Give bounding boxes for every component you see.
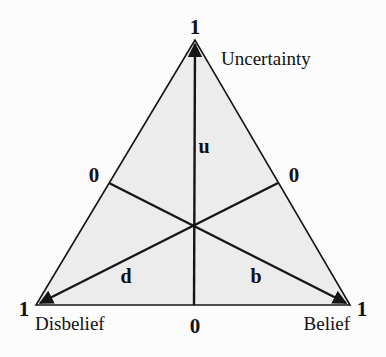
u-axis-label: u	[198, 135, 209, 157]
top-vertex-value: 1	[190, 15, 201, 39]
right-side-zero: 0	[289, 163, 300, 187]
belief-label: Belief	[304, 313, 351, 334]
uncertainty-label: Uncertainty	[221, 48, 311, 69]
left-vertex-value: 1	[19, 297, 30, 321]
right-vertex-value: 1	[357, 297, 368, 321]
opinion-triangle-diagram: 1 1 1 Uncertainty Disbelief Belief 0 0 0…	[0, 0, 386, 357]
left-side-zero: 0	[89, 163, 100, 187]
u-axis-line	[194, 44, 195, 305]
b-axis-label: b	[250, 265, 261, 287]
bottom-side-zero: 0	[190, 314, 201, 338]
disbelief-label: Disbelief	[35, 313, 105, 334]
d-axis-label: d	[120, 265, 131, 287]
